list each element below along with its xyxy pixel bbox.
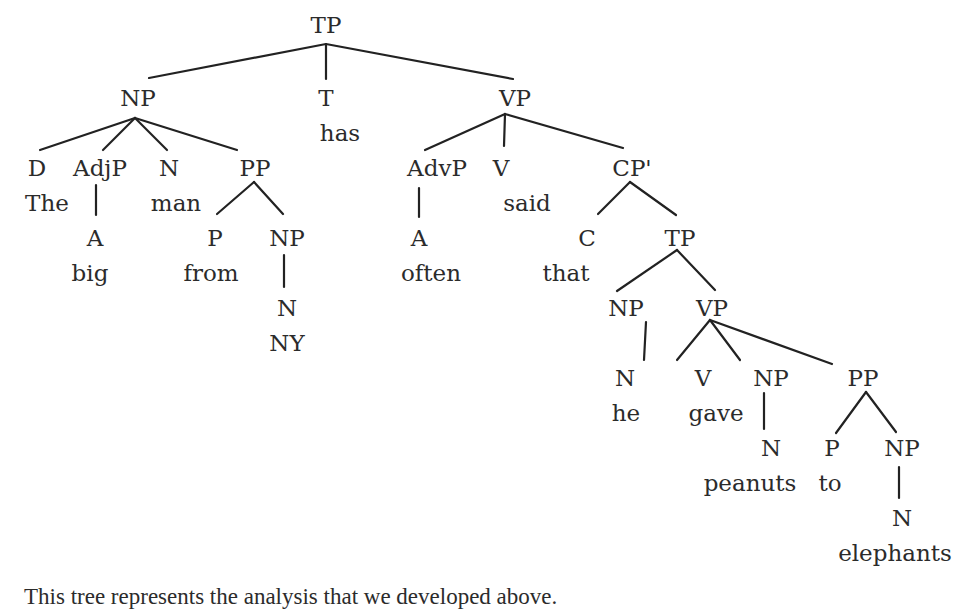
tree-branch xyxy=(836,392,866,433)
tree-node-vp-emb: VP xyxy=(696,297,728,320)
tree-node-n-he-word: he xyxy=(612,402,640,425)
tree-branch xyxy=(254,182,283,214)
tree-node-np-elephants: NP xyxy=(884,437,920,460)
tree-node-n-elephants: N xyxy=(892,507,912,530)
tree-branch xyxy=(630,182,676,215)
tree-node-v-gave-word: gave xyxy=(688,402,743,425)
tree-node-d-word: The xyxy=(25,192,69,215)
tree-node-n-peanuts: N xyxy=(761,437,781,460)
tree-node-n-elephants-word: elephants xyxy=(838,542,952,565)
tree-node-p-from: P xyxy=(207,227,222,250)
tree-node-n-ny: N xyxy=(277,297,297,320)
tree-node-tp-root: TP xyxy=(311,14,342,37)
tree-node-a-big-word: big xyxy=(72,262,109,285)
tree-node-n-man: N xyxy=(159,157,179,180)
tree-branch xyxy=(149,44,326,78)
tree-branch xyxy=(866,392,896,432)
tree-node-v-gave: V xyxy=(695,367,712,390)
tree-node-adjp: AdjP xyxy=(73,157,127,180)
tree-node-p-to: P xyxy=(824,437,839,460)
tree-node-np-ny: NP xyxy=(269,227,305,250)
tree-node-n-peanuts-word: peanuts xyxy=(704,472,797,495)
tree-node-v-said-word: said xyxy=(503,192,551,215)
tree-node-c-word: that xyxy=(542,262,589,285)
tree-node-n-man-word: man xyxy=(151,192,201,215)
tree-branch xyxy=(617,250,677,291)
tree-node-a-often-word: often xyxy=(401,262,461,285)
tree-branch xyxy=(677,320,710,360)
tree-node-vp-main: VP xyxy=(499,87,531,110)
tree-branch xyxy=(677,250,715,290)
tree-node-np-peanuts: NP xyxy=(753,367,789,390)
tree-node-p-to-word: to xyxy=(818,472,841,495)
tree-node-n-ny-word: NY xyxy=(269,332,304,355)
tree-node-c: C xyxy=(578,227,596,250)
tree-node-n-he: N xyxy=(615,367,635,390)
tree-branch xyxy=(598,182,630,214)
tree-branch xyxy=(644,322,646,360)
tree-node-np-he: NP xyxy=(608,297,644,320)
tree-branch xyxy=(505,114,623,148)
tree-node-t: T xyxy=(318,87,333,110)
tree-node-p-from-word: from xyxy=(183,262,238,285)
tree-branch xyxy=(425,114,505,150)
tree-node-a-often: A xyxy=(411,227,428,250)
tree-node-d: D xyxy=(28,157,46,180)
tree-branch xyxy=(710,320,832,364)
tree-node-a-big: A xyxy=(87,227,104,250)
tree-branch xyxy=(504,114,505,146)
caption-text: This tree represents the analysis that w… xyxy=(24,584,557,610)
tree-node-advp: AdvP xyxy=(407,157,467,180)
tree-branch xyxy=(326,44,513,79)
tree-node-tp-emb: TP xyxy=(665,227,696,250)
tree-node-v-said: V xyxy=(493,157,510,180)
tree-branch xyxy=(40,118,135,150)
tree-node-cp-bar: CP' xyxy=(612,157,651,180)
tree-node-pp-to: PP xyxy=(848,367,879,390)
tree-node-pp-from: PP xyxy=(240,157,271,180)
tree-branch xyxy=(217,182,254,214)
tree-node-np-subj: NP xyxy=(120,87,156,110)
tree-node-t-word: has xyxy=(320,122,360,145)
